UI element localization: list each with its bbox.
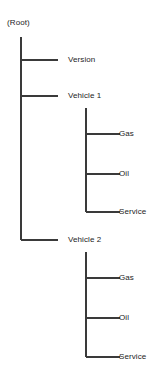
node-label-vehicle-1-service[interactable]: Service [119,207,146,217]
node-label-vehicle-1[interactable]: Vehicle 1 [68,91,101,101]
node-label-vehicle-2[interactable]: Vehicle 2 [68,235,101,245]
node-label-version[interactable]: Version [68,55,95,65]
node-label-vehicle-2-oil[interactable]: Oil [119,313,129,323]
node-label-vehicle-2-gas[interactable]: Gas [119,273,134,283]
node-label-vehicle-2-service[interactable]: Service [119,352,146,362]
node-label-vehicle-1-gas[interactable]: Gas [119,129,134,139]
tree-diagram: (Root) VersionVehicle 1GasOilServiceVehi… [0,0,159,376]
root-label: (Root) [7,18,30,28]
node-label-vehicle-1-oil[interactable]: Oil [119,169,129,179]
